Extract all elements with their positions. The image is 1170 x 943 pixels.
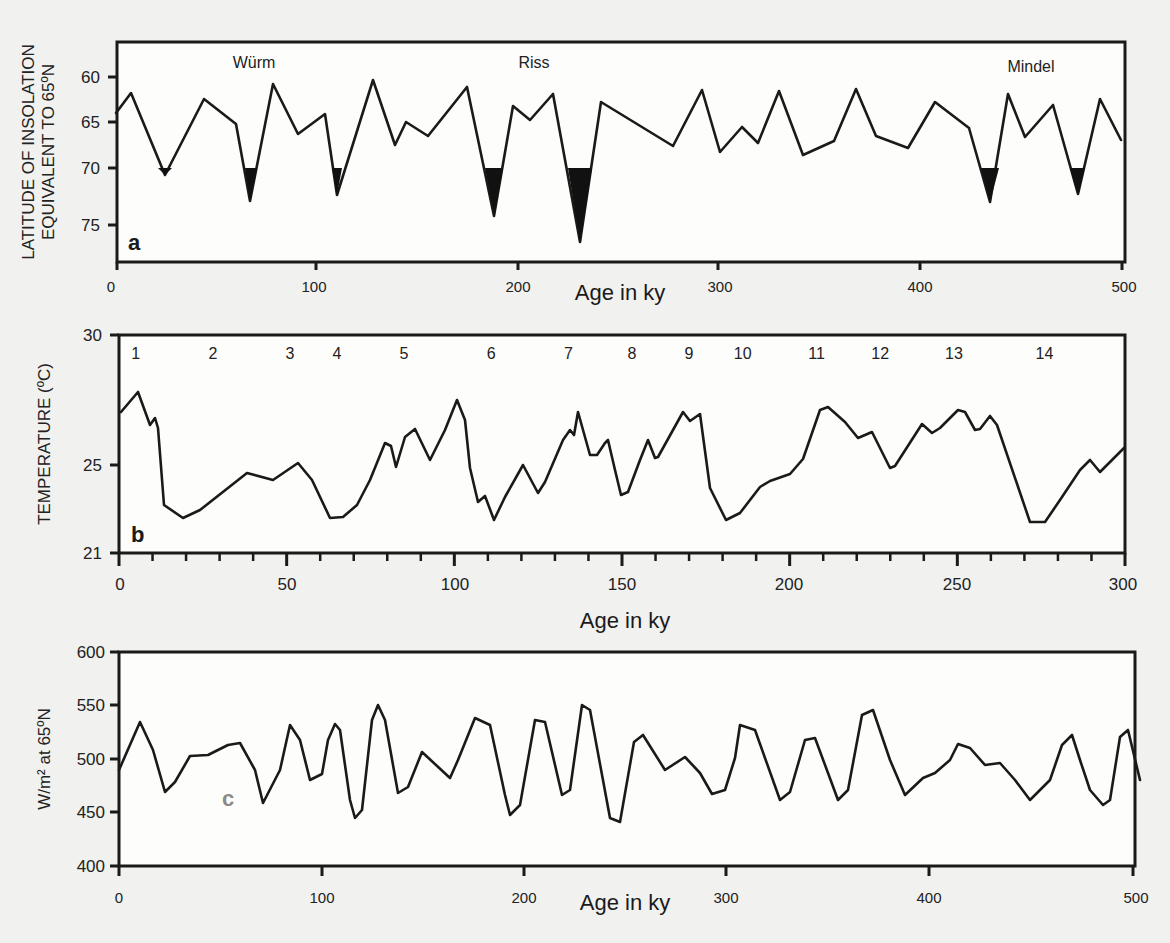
panel-label-c: c: [222, 786, 234, 811]
panel-b: 30 25 21 0 50 100 150 200 250 300 Age in…: [35, 326, 1137, 633]
y-tick-label: 65: [81, 113, 100, 132]
stage-number: 4: [333, 345, 342, 362]
y-tick-label: 21: [83, 544, 102, 563]
x-tick-label: 300: [707, 278, 732, 295]
x-tick-label: 500: [1111, 278, 1136, 295]
panel-b-frame: [119, 335, 1125, 553]
stage-number: 2: [208, 345, 217, 362]
figure-canvas: 60 65 70 75 0 100 200 300 400 500 Age in…: [0, 0, 1170, 943]
stage-number: 14: [1036, 345, 1054, 362]
panel-a-frame: [117, 42, 1125, 262]
annotation-wurm: Würm: [233, 54, 276, 71]
y-tick-label: 500: [77, 750, 105, 769]
x-tick-label: 300: [713, 889, 738, 906]
annotation-riss: Riss: [518, 54, 549, 71]
y-tick-label: 75: [81, 216, 100, 235]
y-tick-label: 30: [83, 326, 102, 345]
x-tick-label: 150: [608, 575, 636, 594]
x-tick-label: 250: [943, 575, 971, 594]
x-tick-label: 200: [505, 278, 530, 295]
stage-number: 10: [734, 345, 752, 362]
x-axis-title: Age in ky: [580, 890, 671, 915]
panel-c: 600 550 500 450 400 0 100 200 300 400 50…: [35, 643, 1149, 915]
x-tick-label: 500: [1123, 889, 1148, 906]
stage-number: 8: [628, 345, 637, 362]
x-tick-label: 0: [107, 278, 115, 295]
panel-a: 60 65 70 75 0 100 200 300 400 500 Age in…: [19, 42, 1137, 305]
stage-number: 9: [685, 345, 694, 362]
stage-number: 1: [131, 345, 140, 362]
y-tick-label: 550: [77, 696, 105, 715]
x-axis-title: Age in ky: [575, 280, 666, 305]
stage-number: 5: [400, 345, 409, 362]
x-tick-label: 50: [278, 575, 297, 594]
stage-number: 3: [286, 345, 295, 362]
y-tick-label: 70: [81, 159, 100, 178]
stage-number: 6: [487, 345, 496, 362]
x-tick-label: 100: [301, 278, 326, 295]
annotation-mindel: Mindel: [1007, 58, 1054, 75]
y-axis-title-line2: EQUIVALENT TO 65ºN: [39, 64, 58, 240]
y-axis-title: W/m² at 65ºN: [35, 708, 54, 810]
x-tick-label: 100: [309, 889, 334, 906]
stage-number: 12: [871, 345, 889, 362]
x-tick-label: 100: [441, 575, 469, 594]
x-tick-label: 300: [1109, 575, 1137, 594]
x-tick-label: 0: [115, 575, 124, 594]
panel-c-frame: [119, 652, 1135, 866]
stage-number: 13: [945, 345, 963, 362]
x-tick-label: 400: [907, 278, 932, 295]
x-tick-label: 200: [511, 889, 536, 906]
y-tick-label: 400: [77, 857, 105, 876]
x-tick-label: 400: [916, 889, 941, 906]
x-tick-label: 200: [775, 575, 803, 594]
stage-number: 7: [564, 345, 573, 362]
x-axis-title: Age in ky: [580, 608, 671, 633]
y-tick-label: 600: [77, 643, 105, 662]
panel-b-x-ticks: [119, 553, 1125, 566]
y-tick-label: 60: [81, 68, 100, 87]
y-axis-title: TEMPERATURE (ºC): [35, 363, 54, 525]
x-tick-label: 0: [115, 889, 123, 906]
panel-label-b: b: [131, 522, 144, 547]
stage-number: 11: [808, 345, 825, 362]
y-tick-label: 25: [83, 456, 102, 475]
y-axis-title-line1: LATITUDE OF INSOLATION: [19, 44, 38, 260]
panel-label-a: a: [128, 230, 141, 255]
y-tick-label: 450: [77, 803, 105, 822]
